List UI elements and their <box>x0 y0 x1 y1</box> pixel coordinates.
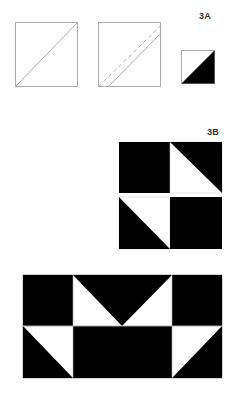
cell-solid-black <box>170 197 222 249</box>
half-square-triangle <box>182 51 215 84</box>
cell-solid-black <box>119 142 170 193</box>
cell-solid-black <box>73 326 122 378</box>
cell-solid-black <box>122 326 172 378</box>
section-label-3a: 3A <box>199 12 211 21</box>
square-with-seam <box>99 23 161 87</box>
section-label-3b: 3B <box>207 128 219 137</box>
cell-solid-black <box>172 275 222 326</box>
block-final <box>23 275 222 378</box>
square-with-diagonal <box>16 23 78 87</box>
quilt-diagram <box>0 0 236 402</box>
block-3b <box>119 142 222 249</box>
cell-solid-black <box>23 275 73 326</box>
